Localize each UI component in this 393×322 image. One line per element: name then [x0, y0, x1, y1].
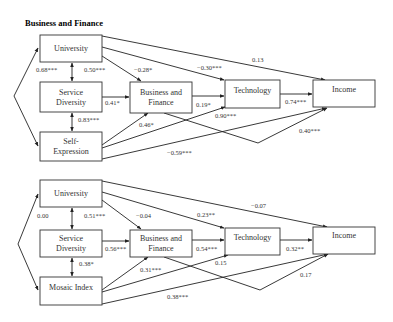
coef-univ-income: 0.13 [252, 56, 263, 63]
coef-univ-tech: 0.23** [197, 211, 215, 218]
node-income: Income [313, 80, 375, 107]
svg-text:Expression: Expression [53, 147, 89, 156]
coef-third-tech: 0.90*** [215, 112, 236, 119]
coef-univ-service: 0.68*** [36, 66, 57, 73]
svg-text:Business and: Business and [140, 88, 182, 97]
node-service-diversity: Service Diversity [40, 82, 102, 112]
coef-third-income: 0.38*** [167, 293, 188, 300]
svg-text:Income: Income [332, 85, 356, 94]
edge-third-tech [102, 255, 228, 292]
svg-text:Technology: Technology [234, 86, 272, 95]
node-self-expression: Self- Expression [40, 132, 102, 161]
coef-bf-tech: 0.19* [196, 101, 211, 108]
node-university: University [40, 180, 102, 207]
svg-text:Self-: Self- [63, 137, 79, 146]
svg-text:Business and: Business and [140, 234, 182, 243]
coef-univ-tech: −0.30*** [197, 64, 222, 71]
svg-text:Finance: Finance [148, 98, 174, 107]
coef-univ-bf: −0.04 [136, 212, 152, 219]
coef-univ-service-right: 0.50*** [84, 66, 105, 73]
svg-text:University: University [54, 44, 88, 53]
coef-univ-income: −0.07 [251, 202, 267, 209]
coef-bf-tech: 0.54*** [196, 245, 217, 252]
coef-third-income: −0.59*** [167, 149, 192, 156]
path-diagram: Business and Finance [0, 0, 393, 322]
coef-service-bf: 0.56*** [105, 245, 126, 252]
edge-univ-third-correlation [18, 194, 38, 290]
edge-univ-income [102, 181, 327, 227]
node-university: University [40, 35, 102, 62]
svg-text:Income: Income [332, 231, 356, 240]
coef-univ-bf: −0.28* [134, 66, 152, 73]
edge-univ-income [102, 36, 325, 80]
node-service-diversity: Service Diversity [40, 230, 102, 257]
svg-text:Finance: Finance [148, 244, 174, 253]
svg-text:Service: Service [59, 234, 83, 243]
node-business-finance: Business and Finance [130, 82, 192, 113]
coef-tech-income: 0.32** [286, 245, 304, 252]
edge-univ-third-correlation [14, 48, 38, 146]
panel-top: University Service Diversity Self- Expre… [14, 35, 375, 161]
node-business-finance: Business and Finance [130, 230, 192, 257]
node-income: Income [313, 227, 375, 254]
coef-service-third: 0.38* [79, 260, 94, 267]
node-mosaic-index: Mosaic Index [40, 277, 102, 305]
panel-bottom: University Service Diversity Mosaic Inde… [18, 180, 375, 305]
coef-bf-income: 0.40*** [299, 127, 320, 134]
edge-univ-tech [102, 192, 224, 228]
coef-service-bf: 0.41* [105, 99, 120, 106]
svg-text:University: University [54, 189, 88, 198]
figure-title: Business and Finance [25, 18, 103, 28]
node-technology: Technology [225, 228, 280, 255]
coef-tech-income: 0.74*** [285, 98, 306, 105]
coef-univ-service-right: 0.51*** [84, 212, 105, 219]
svg-text:Service: Service [59, 88, 83, 97]
coef-bf-income: 0.17 [300, 271, 312, 278]
svg-text:Diversity: Diversity [56, 244, 86, 253]
coef-univ-service: 0.00 [37, 212, 48, 219]
svg-text:Technology: Technology [234, 233, 272, 242]
svg-text:Diversity: Diversity [56, 98, 86, 107]
edge-third-income [102, 108, 326, 159]
coef-third-tech: 0.15 [215, 259, 226, 266]
coef-service-third: 0.83*** [78, 116, 99, 123]
node-technology: Technology [225, 80, 280, 108]
coef-third-bf: 0.31*** [140, 266, 161, 273]
coef-third-bf: 0.46* [139, 121, 154, 128]
svg-text:Mosaic Index: Mosaic Index [49, 283, 93, 292]
